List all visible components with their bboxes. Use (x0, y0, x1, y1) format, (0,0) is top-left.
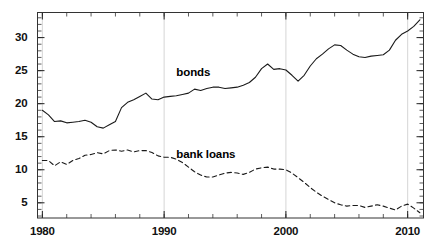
x-axis-tick-label: 2010 (383, 225, 433, 237)
series-annotation-bonds: bonds (176, 66, 210, 78)
y-axis-tick-label: 20 (2, 97, 28, 109)
y-axis-tick-label: 5 (2, 196, 28, 208)
y-axis-tick-label: 25 (2, 64, 28, 76)
x-axis-tick-label: 2000 (261, 225, 311, 237)
series-annotation-bank-loans: bank loans (176, 148, 235, 160)
chart-background (0, 0, 435, 250)
chart-figure: 510152025301980199020002010bondsbank loa… (0, 0, 435, 250)
line-chart-plot (0, 0, 435, 250)
y-axis-tick-label: 15 (2, 130, 28, 142)
x-axis-tick-label: 1990 (139, 225, 189, 237)
y-axis-tick-label: 30 (2, 31, 28, 43)
x-axis-tick-label: 1980 (17, 225, 67, 237)
y-axis-tick-label: 10 (2, 163, 28, 175)
